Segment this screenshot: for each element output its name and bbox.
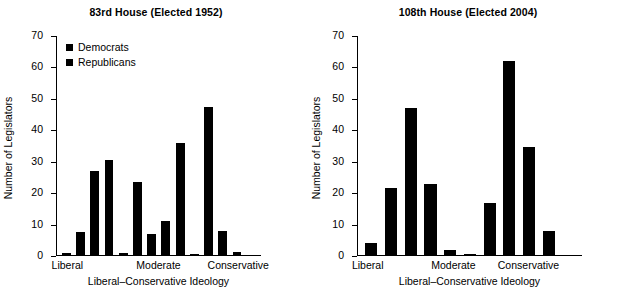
bar-democrats-1 [385, 188, 397, 256]
y-tick-label-60: 60 [332, 60, 344, 73]
y-tick-label-10: 10 [31, 218, 43, 231]
bar-republicans-12 [233, 252, 242, 256]
y-tick-10: 10 [51, 225, 56, 226]
x-tick-label-moderate: Moderate [431, 259, 475, 271]
bar-democrats-2 [405, 108, 417, 256]
bar-republicans-4 [119, 253, 128, 256]
bar-democrats-0 [62, 253, 71, 256]
y-tick-label-50: 50 [31, 92, 43, 105]
legend-label-democrats: Democrats [78, 40, 129, 55]
y-tick-label-70: 70 [332, 29, 344, 42]
y-tick-label-50: 50 [332, 92, 344, 105]
y-tick-60: 60 [352, 67, 357, 68]
y-axis-label-left: Number of Legislators [2, 97, 14, 200]
x-tick-label-liberal: Liberal [52, 259, 84, 271]
bar-democrats-9 [190, 254, 199, 256]
bar-democrats-5 [133, 182, 142, 256]
panel-title-right: 108th House (Elected 2004) [312, 6, 624, 18]
y-tick-60: 60 [51, 67, 56, 68]
bar-democrats-3 [424, 184, 436, 256]
bar-republicans-6 [484, 203, 496, 256]
legend-left: Democrats Republicans [66, 40, 136, 70]
bar-republicans-8 [176, 143, 185, 256]
y-tick-10: 10 [352, 225, 357, 226]
bar-democrats-0 [365, 243, 377, 256]
bar-republicans-11 [218, 231, 227, 256]
bar-group-right [357, 36, 582, 256]
plot-area-right: Liberal–Conservative Ideology 0102030405… [357, 36, 582, 256]
x-tick-label-conservative: Conservative [498, 259, 559, 271]
bar-democrats-1 [76, 232, 85, 256]
y-tick-label-20: 20 [31, 186, 43, 199]
y-axis-label-right: Number of Legislators [310, 97, 322, 200]
x-tick-label-moderate: Moderate [136, 259, 180, 271]
legend-item-republicans: Republicans [66, 55, 136, 70]
y-tick-label-10: 10 [332, 218, 344, 231]
y-tick-20: 20 [352, 193, 357, 194]
y-tick-label-70: 70 [31, 29, 43, 42]
x-axis-label-left: Liberal–Conservative Ideology [56, 275, 261, 287]
y-tick-50: 50 [352, 99, 357, 100]
y-tick-label-60: 60 [31, 60, 43, 73]
bar-republicans-9 [543, 231, 555, 256]
y-tick-30: 30 [352, 162, 357, 163]
panel-108th-house: 108th House (Elected 2004) Number of Leg… [312, 0, 624, 296]
x-tick-label-conservative: Conservative [208, 259, 269, 271]
y-tick-label-40: 40 [31, 123, 43, 136]
y-tick-label-30: 30 [332, 155, 344, 168]
y-tick-label-40: 40 [332, 123, 344, 136]
two-panel-bar-chart-figure: 83rd House (Elected 1952) Number of Legi… [0, 0, 624, 296]
y-tick-label-0: 0 [37, 249, 43, 262]
y-tick-70: 70 [352, 36, 357, 37]
bar-republicans-7 [503, 61, 515, 256]
panel-83rd-house: 83rd House (Elected 1952) Number of Legi… [0, 0, 312, 296]
y-tick-50: 50 [51, 99, 56, 100]
x-tick-label-liberal: Liberal [352, 259, 384, 271]
y-tick-0: 0 [51, 256, 56, 257]
y-tick-0: 0 [352, 256, 357, 257]
legend-label-republicans: Republicans [78, 55, 136, 70]
bar-democrats-4 [444, 250, 456, 256]
bar-republicans-8 [523, 147, 535, 256]
bar-democrats-2 [90, 171, 99, 256]
bar-republicans-6 [147, 234, 156, 256]
x-axis-label-right: Liberal–Conservative Ideology [357, 275, 582, 287]
bar-democrats-3 [105, 160, 114, 256]
bar-democrats-7 [161, 221, 170, 256]
y-tick-label-0: 0 [338, 249, 344, 262]
y-tick-30: 30 [51, 162, 56, 163]
y-tick-70: 70 [51, 36, 56, 37]
y-tick-label-20: 20 [332, 186, 344, 199]
legend-item-democrats: Democrats [66, 40, 136, 55]
square-marker-icon [66, 59, 73, 66]
panel-title-left: 83rd House (Elected 1952) [0, 6, 312, 18]
square-marker-icon [66, 44, 73, 51]
y-tick-40: 40 [352, 130, 357, 131]
bar-republicans-10 [204, 107, 213, 256]
y-tick-label-30: 30 [31, 155, 43, 168]
bar-republicans-5 [464, 254, 476, 257]
y-tick-20: 20 [51, 193, 56, 194]
y-tick-40: 40 [51, 130, 56, 131]
